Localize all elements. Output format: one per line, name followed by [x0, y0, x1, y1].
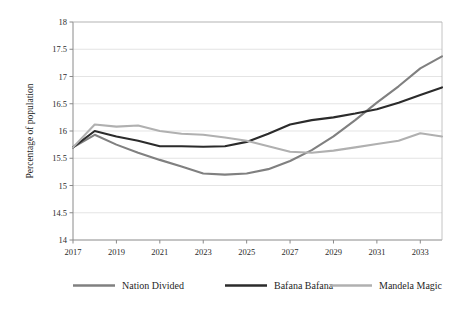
- y-tick-label: 18: [59, 17, 68, 27]
- legend-label-0: Nation Divided: [122, 280, 184, 291]
- x-tick-label: 2033: [412, 247, 429, 257]
- y-tick-label: 14: [59, 235, 68, 245]
- y-tick-label: 15: [59, 181, 68, 191]
- y-axis-title-label: Percentage of population: [25, 83, 35, 178]
- x-tick-label: 2019: [108, 247, 125, 257]
- gridlines: [73, 22, 442, 213]
- y-tick-label: 14.5: [52, 208, 67, 218]
- x-tick-label: 2023: [195, 247, 212, 257]
- legend-label-2: Mandela Magic: [379, 280, 443, 291]
- x-tick-label: 2031: [368, 247, 385, 257]
- chart-container: 1414.51515.51616.51717.518 2017201920212…: [0, 0, 466, 310]
- x-axis: 201720192021202320252027202920312033: [65, 240, 443, 257]
- x-tick-label: 2027: [282, 247, 299, 257]
- y-axis-title: Percentage of population: [25, 83, 35, 178]
- y-tick-label: 17.5: [52, 44, 67, 54]
- series-line-nation-divided: [73, 56, 442, 174]
- x-tick-label: 2021: [151, 247, 168, 257]
- x-tick-label: 2029: [325, 247, 342, 257]
- y-tick-label: 15.5: [52, 153, 67, 163]
- y-axis: 1414.51515.51616.51717.518: [52, 17, 73, 245]
- y-tick-label: 16.5: [52, 99, 67, 109]
- line-chart: 1414.51515.51616.51717.518 2017201920212…: [0, 0, 466, 310]
- legend-label-1: Bafana Bafana: [274, 280, 334, 291]
- y-tick-label: 17: [59, 72, 68, 82]
- chart-legend: Nation DividedBafana BafanaMandela Magic: [73, 280, 443, 291]
- x-tick-label: 2017: [65, 247, 82, 257]
- x-tick-label: 2025: [238, 247, 255, 257]
- series-lines: [73, 56, 442, 174]
- y-tick-label: 16: [59, 126, 68, 136]
